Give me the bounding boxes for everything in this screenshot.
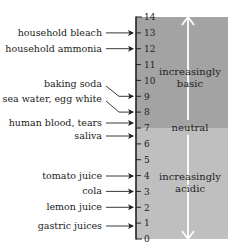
tick-label-11: 11	[144, 60, 155, 70]
neutral-label: neutral	[172, 122, 209, 133]
acidic-label-line2: acidic	[175, 183, 205, 194]
tick-label-12: 12	[144, 44, 155, 54]
substance-lemon-juice: lemon juice	[46, 201, 102, 212]
substance-saliva: saliva	[74, 130, 102, 141]
tick-label-5: 5	[144, 155, 150, 165]
tick-label-13: 13	[144, 28, 156, 38]
tick-label-6: 6	[144, 139, 150, 149]
substance-household-ammonia: household ammonia	[5, 43, 102, 54]
tick-label-7: 7	[144, 123, 150, 133]
ph-scale-diagram: increasingly basic neutral increasingly …	[0, 0, 234, 252]
arrow-icon	[106, 86, 133, 96]
substance-labels: household bleach household ammonia bakin…	[3, 27, 134, 231]
substance-tomato-juice: tomato juice	[42, 170, 102, 181]
tick-label-1: 1	[144, 218, 150, 228]
substance-gastric-juices: gastric juices	[38, 220, 102, 231]
tick-label-14: 14	[144, 12, 156, 22]
tick-label-8: 8	[144, 107, 150, 117]
substance-cola: cola	[82, 185, 102, 196]
tick-label-0: 0	[144, 234, 150, 244]
tick-label-4: 4	[144, 171, 150, 181]
arrow-icon	[106, 101, 133, 112]
substance-household-bleach: household bleach	[18, 27, 102, 38]
tick-label-2: 2	[144, 203, 150, 213]
tick-label-3: 3	[144, 187, 150, 197]
substance-sea-water-egg-white: sea water, egg white	[3, 93, 103, 104]
substance-human-blood-tears: human blood, tears	[9, 117, 102, 128]
basic-label-line1: increasingly	[159, 66, 221, 77]
acidic-label-line1: increasingly	[159, 171, 221, 182]
substance-baking-soda: baking soda	[44, 78, 102, 89]
basic-label-line2: basic	[177, 78, 204, 89]
tick-label-9: 9	[144, 92, 150, 102]
tick-label-10: 10	[144, 76, 156, 86]
